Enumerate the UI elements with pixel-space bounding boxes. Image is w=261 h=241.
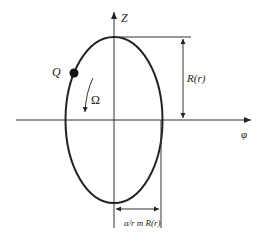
orbit-diagram: Z φ Q Ω R(r) a/r m R(r) [0,0,261,241]
z-axis-label: Z [121,11,128,25]
phi-axis-label: φ [241,128,247,140]
point-q [70,69,79,78]
omega-label: Ω [91,93,100,107]
height-dimension [114,37,191,118]
height-dimension-label: R(r) [186,72,206,85]
point-q-label: Q [52,65,61,79]
width-dimension [116,120,161,228]
width-dimension-label: a/r m R(r) [124,218,161,228]
